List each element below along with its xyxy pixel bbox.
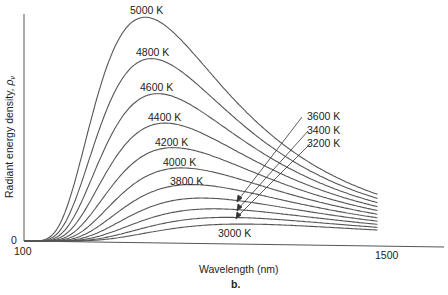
- x-tick-100: 100: [14, 245, 32, 257]
- arrow-3200: [238, 144, 310, 216]
- label-4000k: 4000 K: [163, 156, 196, 168]
- label-4600k: 4600 K: [140, 81, 173, 93]
- label-3400k: 3400 K: [307, 124, 340, 136]
- y-axis-title-symbol: ρ: [3, 80, 15, 87]
- blackbody-radiation-chart: 5000 K 4800 K 4600 K 4400 K 4200 K 4000 …: [0, 0, 448, 295]
- figure-label: b.: [231, 278, 240, 290]
- label-3600k: 3600 K: [307, 110, 340, 122]
- x-axis: [24, 241, 444, 247]
- label-5000k: 5000 K: [130, 4, 163, 16]
- x-axis-title: Wavelength (nm): [199, 263, 279, 275]
- label-3200k: 3200 K: [307, 137, 340, 149]
- label-4400k: 4400 K: [148, 111, 181, 123]
- y-axis-title-main: Radiant energy density,: [3, 86, 15, 198]
- svg-text:Radiant energy density, ρν: Radiant energy density, ρν: [3, 76, 16, 198]
- label-4800k: 4800 K: [136, 46, 169, 58]
- x-tick-1500: 1500: [375, 249, 399, 261]
- label-4200k: 4200 K: [155, 136, 188, 148]
- curve-3000k: [24, 224, 378, 241]
- label-3800k: 3800 K: [170, 175, 203, 187]
- y-axis-title-subscript: ν: [9, 76, 16, 80]
- y-axis-title: Radiant energy density, ρν: [3, 76, 16, 198]
- label-3000k: 3000 K: [218, 227, 251, 239]
- curve-3800k: [24, 185, 378, 241]
